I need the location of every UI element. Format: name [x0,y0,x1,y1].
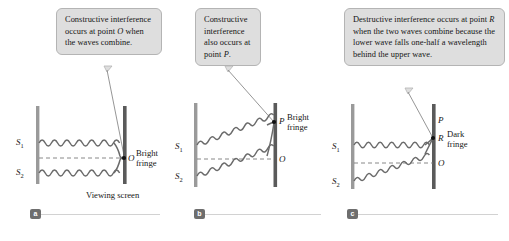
viewing-screen-a [123,106,127,184]
barrier-b [194,103,197,187]
point-dot-r-c [431,136,435,140]
fringe-label-c: Dark fringe [447,130,477,150]
source-label-s1-c: S1 [332,141,340,153]
panel-c: Destructive interference occurs at point… [321,0,509,241]
panel-a-diagram [0,0,166,241]
wave-lower-a [39,170,120,176]
source-label-s2-b: S2 [175,171,183,183]
panel-c-diagram [321,0,509,241]
leader-line-c [408,92,433,138]
viewing-screen-c [432,104,436,189]
source-label-s2-a: S2 [16,167,24,179]
source-label-s1-b: S1 [175,141,183,153]
wave-upper-a [39,140,120,146]
point-label-o-b: O [279,154,286,164]
wave-lower-converge-b [267,123,274,156]
barrier-c [351,104,354,189]
wave-upper-converge-a [114,143,124,159]
panel-a: Constructive interference occurs at poin… [0,0,166,241]
fringe-label-a: Bright fringe [136,149,164,169]
wave-lower-b [197,145,274,176]
wave-lower-converge-a [114,157,124,173]
panel-badge-c: c [347,209,358,219]
wave-lower-c [354,153,429,181]
wave-upper-c [354,142,429,148]
point-dot-o-a [122,156,126,160]
point-label-r-c: R [438,133,444,143]
viewing-screen-label-a: Viewing screen [86,190,139,200]
panel-rule-b [205,214,321,215]
panel-badge-b: b [194,209,205,219]
point-label-p-c: P [438,115,444,125]
panel-b: Constructive interference also occurs at… [166,0,321,241]
fringe-label-b: Bright fringe [287,113,315,133]
interference-figure: Constructive interference occurs at poin… [0,0,509,241]
point-label-o-c: O [438,158,445,168]
wave-upper-b [197,114,274,145]
point-label-p-b: P [279,116,285,126]
wave-lower-converge-c [425,138,433,154]
panel-rule-a [41,214,160,215]
point-label-o-a: O [128,153,135,163]
source-label-s1-a: S1 [16,137,24,149]
source-label-s2-c: S2 [332,176,340,188]
panel-badge-a: a [30,209,41,219]
leader-line-b [228,70,274,122]
panel-rule-c [358,214,498,215]
viewing-screen-b [274,103,278,187]
callout-tail-a [104,66,112,72]
point-dot-p-b [272,120,276,124]
